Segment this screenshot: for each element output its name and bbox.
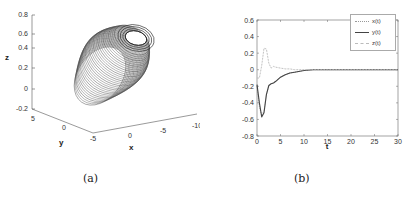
y-tick: -0.2 bbox=[242, 83, 254, 90]
legend: x(t) y(t) z(t) bbox=[350, 14, 396, 51]
legend-swatch bbox=[355, 32, 369, 33]
x-axis-label: x bbox=[129, 143, 134, 152]
y-axis-label: y bbox=[59, 138, 64, 147]
x-tick: 10 bbox=[300, 138, 308, 145]
legend-item-x: x(t) bbox=[351, 16, 395, 26]
x-tick: -5 bbox=[160, 127, 166, 134]
x-tick: 0 bbox=[255, 138, 259, 145]
z-tick: 0.4 bbox=[18, 44, 28, 51]
caption-a: (a) bbox=[83, 172, 98, 185]
t-axis-label: t bbox=[326, 142, 329, 151]
z-tick: 0.6 bbox=[18, 30, 28, 37]
z-tick: 0.8 bbox=[18, 11, 28, 18]
z-tick: 0.2 bbox=[18, 64, 28, 71]
x-tick: 30 bbox=[394, 138, 402, 145]
x-tick: -10 bbox=[192, 122, 200, 129]
legend-label: y(t) bbox=[372, 29, 381, 35]
legend-item-y: y(t) bbox=[351, 27, 395, 37]
legend-label: x(t) bbox=[372, 18, 381, 24]
x-tick: 5 bbox=[279, 138, 283, 145]
legend-swatch bbox=[355, 21, 369, 22]
y-tick: 0 bbox=[62, 124, 66, 131]
z-axis-label: z bbox=[5, 53, 9, 62]
y-tick: 0.6 bbox=[244, 17, 254, 24]
caption-b: (b) bbox=[294, 172, 310, 185]
panel-b-time-series: 0.60.40.20-0.2-0.4-0.6-0.8 051015202530 … bbox=[200, 0, 407, 197]
panel-a-3d-plot: 0.8 0.6 0.4 0.2 0 -0.2 z 5 0 y -5 0 -5 -… bbox=[0, 0, 200, 197]
z-tick: 0 bbox=[24, 85, 28, 92]
legend-label: z(t) bbox=[372, 40, 381, 46]
y-tick: 0.4 bbox=[244, 33, 254, 40]
y-tick: 0 bbox=[250, 66, 254, 73]
y-tick: -0.6 bbox=[242, 116, 254, 123]
y-tick: 0.2 bbox=[244, 50, 254, 57]
plot-3d-svg: 0.8 0.6 0.4 0.2 0 -0.2 z 5 0 y -5 0 -5 -… bbox=[0, 0, 200, 197]
y-tick: 5 bbox=[31, 115, 35, 122]
z-tick: -0.2 bbox=[16, 105, 28, 112]
y-tick: -0.4 bbox=[242, 99, 254, 106]
y-tick: -0.8 bbox=[242, 133, 254, 140]
legend-swatch bbox=[355, 43, 369, 44]
trajectory-3d bbox=[63, 19, 157, 115]
x-tick: -5 bbox=[90, 135, 96, 142]
legend-item-z: z(t) bbox=[351, 38, 395, 48]
x-tick: 0 bbox=[128, 132, 132, 139]
x-tick: 20 bbox=[347, 138, 355, 145]
x-tick: 25 bbox=[371, 138, 379, 145]
